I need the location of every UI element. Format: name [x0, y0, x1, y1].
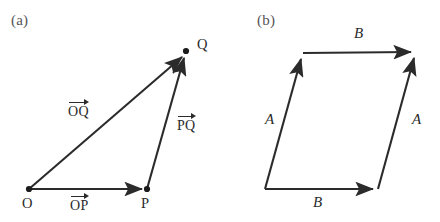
- vector-diagram-figure: [0, 0, 440, 222]
- vector-label-A-left: A: [265, 111, 274, 128]
- overarrow-icon: [70, 192, 89, 199]
- vector-OQ-line: [29, 57, 182, 189]
- panel-b-graphics: [265, 52, 414, 189]
- point-label-O: O: [22, 195, 32, 212]
- vector-label-B-bottom: B: [313, 194, 322, 211]
- point-label-P: P: [141, 195, 149, 212]
- vector-label-OQ: OQ: [68, 98, 89, 119]
- overarrow-icon: [68, 98, 89, 105]
- point-O-dot: [26, 186, 32, 192]
- panel-a-tag: (a): [11, 12, 28, 29]
- point-Q-dot: [183, 48, 189, 54]
- overarrow-icon: [177, 112, 196, 119]
- vector-A-right-line: [378, 58, 414, 189]
- vector-label-B-top: B: [354, 25, 363, 42]
- panel-b-tag: (b): [257, 12, 275, 29]
- vector-label-PQ: PQ: [177, 112, 196, 133]
- vector-label-OP: OP: [70, 192, 89, 213]
- point-label-Q: Q: [197, 36, 207, 53]
- panel-a-graphics: [26, 48, 189, 192]
- vector-label-A-right: A: [412, 111, 421, 128]
- point-P-dot: [144, 186, 150, 192]
- vector-B-top-line: [303, 52, 411, 53]
